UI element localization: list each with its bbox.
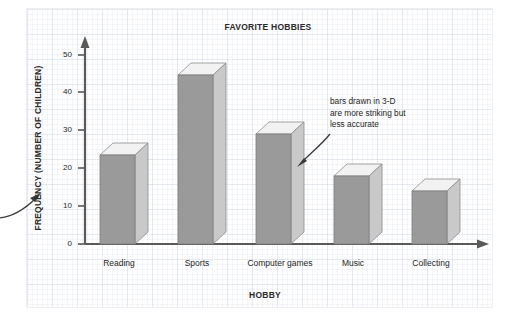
y-tick-label-0: 0 [46,239,72,248]
x-axis-title: HOBBY [205,290,325,300]
bar-computer-games[interactable] [256,122,304,244]
y-tick-label-30: 30 [46,125,72,134]
bar-reading[interactable] [100,143,148,244]
chart-title: FAVORITE HOBBIES [198,22,338,32]
y-tick-label-50: 50 [46,50,72,59]
annotation-line-3: less accurate [330,119,446,131]
y-axis-title: FREQUENCY (NUMBER OF CHILDREN) [33,58,43,238]
annotation-line-1: bars drawn in 3-D [330,96,446,108]
bar-reading-front [100,155,135,244]
x-tick-label-computer-games: Computer games [232,258,328,268]
y-tick-label-10: 10 [46,201,72,210]
bar-music-front [334,176,369,244]
bar-music[interactable] [334,164,382,244]
bar-collecting-front [412,191,447,244]
x-tick-label-sports: Sports [162,258,232,268]
bar-collecting-side [447,179,460,244]
y-axis-arrowhead [81,36,90,48]
x-tick-label-collecting: Collecting [396,258,466,268]
x-tick-label-reading: Reading [84,258,154,268]
annotation-three-d-note: bars drawn in 3-D are more striking but … [330,96,446,131]
bar-reading-side [135,143,148,244]
bar-collecting[interactable] [412,179,460,244]
y-tick-label-20: 20 [46,163,72,172]
y-tick-label-40: 40 [46,87,72,96]
bar-sports[interactable] [178,63,226,244]
bar-music-side [369,164,382,244]
bar-sports-side [213,63,226,244]
x-axis-arrowhead [477,240,489,249]
x-tick-label-music: Music [318,258,388,268]
bar-computer-games-front [256,134,291,244]
bar-sports-front [178,75,213,244]
bar-chart-3d [0,0,515,320]
bar-computer-games-side [291,122,304,244]
annotation-line-2: are more striking but [330,108,446,120]
